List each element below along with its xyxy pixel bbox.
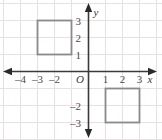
coordinate-plane-figure: x y O –4 –3 –2 1 2 3 3 2 1 –2 –3 bbox=[0, 0, 162, 140]
x-tick-label-3: 3 bbox=[137, 73, 143, 85]
y-tick-label-2: 2 bbox=[76, 32, 82, 44]
x-tick-label--2: –2 bbox=[48, 73, 60, 85]
y-tick-label--3: –3 bbox=[69, 117, 82, 129]
y-axis-label: y bbox=[93, 6, 99, 18]
coordinate-plane-svg: x y O –4 –3 –2 1 2 3 3 2 1 –2 –3 bbox=[0, 0, 162, 140]
y-tick-label-1: 1 bbox=[76, 49, 82, 61]
x-tick-label--3: –3 bbox=[31, 73, 44, 85]
x-tick-label--4: –4 bbox=[14, 73, 27, 85]
x-tick-label-2: 2 bbox=[120, 73, 126, 85]
x-axis-label: x bbox=[147, 73, 153, 85]
y-tick-label-3: 3 bbox=[76, 15, 82, 27]
x-tick-label-1: 1 bbox=[103, 73, 109, 85]
y-tick-label--2: –2 bbox=[69, 100, 81, 112]
origin-label: O bbox=[76, 73, 84, 85]
